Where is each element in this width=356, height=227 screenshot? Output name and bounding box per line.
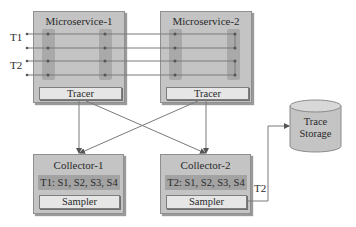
- storage-output-label: T2: [254, 182, 266, 194]
- trace-storage-line2: Storage: [290, 128, 341, 140]
- trace-label-t1: T1: [10, 31, 22, 43]
- trace-label-t2: T2: [10, 59, 22, 71]
- connector-lines: [0, 0, 356, 227]
- trace-storage: Trace Storage: [290, 116, 341, 140]
- trace-storage-line1: Trace: [290, 116, 341, 128]
